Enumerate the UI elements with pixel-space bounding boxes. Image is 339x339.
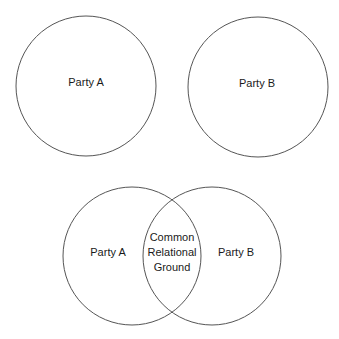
top-party-b-label: Party B xyxy=(239,76,275,91)
bottom-party-a-label: Party A xyxy=(90,245,125,260)
common-relational-ground-label: Common Relational Ground xyxy=(148,230,197,275)
overlap-line-2: Relational xyxy=(148,245,197,260)
overlap-line-1: Common xyxy=(148,230,197,245)
top-party-a-label: Party A xyxy=(68,75,103,90)
venn-diagram-canvas xyxy=(0,0,339,339)
bottom-party-b-label: Party B xyxy=(218,245,254,260)
overlap-line-3: Ground xyxy=(148,260,197,275)
